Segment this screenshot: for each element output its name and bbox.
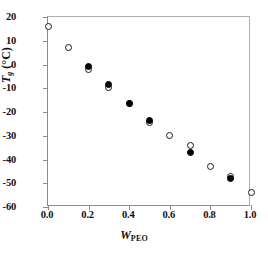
x-axis-tick-label: 0.8 <box>186 209 232 220</box>
data-point-open <box>187 142 194 149</box>
data-point-filled <box>146 117 153 124</box>
y-axis-tick-label: -30 <box>0 129 16 140</box>
x-axis-tick-label: 0.2 <box>65 209 111 220</box>
x-axis-tick-label: 1.0 <box>227 209 268 220</box>
y-axis-tick <box>43 183 48 184</box>
y-axis-tick-label: 20 <box>0 11 16 22</box>
data-point-open <box>248 189 255 196</box>
y-axis-tick-label: 0 <box>0 58 16 69</box>
y-axis-subscript: g <box>5 72 14 76</box>
x-axis-variable: W <box>120 228 131 242</box>
x-axis-tick-label: 0.0 <box>24 209 70 220</box>
data-point-filled <box>227 175 234 182</box>
data-point-open <box>45 23 52 30</box>
y-axis-tick <box>43 112 48 113</box>
x-axis-tick-label: 0.6 <box>146 209 192 220</box>
plot-area <box>47 16 250 206</box>
data-point-open <box>207 163 214 170</box>
y-axis-tick-label: -10 <box>0 82 16 93</box>
y-axis-tick <box>43 17 48 18</box>
data-point-open <box>65 44 72 51</box>
y-axis-tick-label: 10 <box>0 34 16 45</box>
y-axis-tick <box>43 136 48 137</box>
scatter-plot-figure: Tg (°C) WPEO 20100-10-20-30-40-50-600.00… <box>0 0 268 253</box>
x-axis-title: WPEO <box>0 228 268 243</box>
data-point-filled <box>187 149 194 156</box>
y-axis-tick <box>43 41 48 42</box>
y-axis-tick-label: -40 <box>0 153 16 164</box>
y-axis-tick <box>43 88 48 89</box>
y-axis-tick <box>43 65 48 66</box>
y-axis-tick-label: -20 <box>0 106 16 117</box>
x-axis-subscript: PEO <box>131 234 148 243</box>
x-axis-tick-label: 0.4 <box>105 209 151 220</box>
data-point-filled <box>126 100 133 107</box>
data-point-open <box>166 132 173 139</box>
y-axis-tick-label: -60 <box>0 201 16 212</box>
y-axis-tick-label: -50 <box>0 177 16 188</box>
y-axis-tick <box>43 160 48 161</box>
